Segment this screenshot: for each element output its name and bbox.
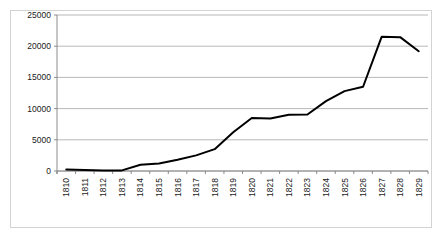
x-axis-tick-label: 1814 [135, 178, 145, 197]
x-axis-tick-label: 1813 [117, 178, 127, 197]
x-axis-tick-label: 1826 [358, 178, 368, 197]
x-axis-tick-label: 1816 [173, 178, 183, 197]
x-axis-tick-label: 1812 [98, 178, 108, 197]
x-axis-tick-label: 1825 [340, 178, 350, 197]
x-axis-tick-label: 1821 [265, 178, 275, 197]
x-axis-tick-label: 1827 [377, 178, 387, 197]
x-axis-tick-label: 1818 [210, 178, 220, 197]
y-axis-tick-label: 10000 [27, 104, 51, 114]
y-axis-tick-label: 0 [46, 166, 51, 176]
x-axis-tick-label: 1823 [302, 178, 312, 197]
x-axis-tick-label: 1817 [191, 178, 201, 197]
y-axis-tick-label: 20000 [27, 41, 51, 51]
line-chart: 0500010000150002000025000 18101811181218… [11, 11, 431, 227]
x-axis-tick-marks [57, 171, 428, 174]
x-axis-tick-label: 1822 [284, 178, 294, 197]
y-axis-tick-label: 15000 [27, 72, 51, 82]
x-axis-tick-label: 1819 [228, 178, 238, 197]
y-axis-tick-label: 5000 [32, 135, 51, 145]
y-axis-tick-label: 25000 [27, 11, 51, 20]
x-axis-tick-label: 1829 [414, 178, 424, 197]
x-axis-tick-label: 1811 [80, 178, 90, 197]
x-axis-tick-label: 1810 [61, 178, 71, 197]
chart-frame: 0500010000150002000025000 18101811181218… [10, 10, 432, 228]
x-axis-tick-label: 1815 [154, 178, 164, 197]
x-axis-tick-label: 1820 [247, 178, 257, 197]
x-axis-tick-label: 1824 [321, 178, 331, 197]
x-axis-tick-label: 1828 [395, 178, 405, 197]
